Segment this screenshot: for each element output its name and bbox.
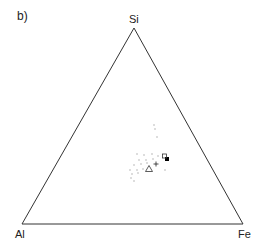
scatter-dot: [155, 129, 156, 130]
ternary-triangle: [22, 28, 243, 224]
scatter-dot: [132, 174, 133, 175]
scatter-dot: [152, 154, 153, 155]
open-triangle-marker: [146, 166, 153, 172]
scatter-dot: [134, 181, 135, 182]
marker-group: [146, 154, 170, 172]
scatter-dot: [137, 154, 138, 155]
scatter-dot: [138, 173, 139, 174]
scatter-dot: [134, 165, 135, 166]
scatter-dot: [154, 125, 155, 126]
scatter-dot: [146, 160, 147, 161]
scatter-dot: [165, 170, 166, 171]
scatter-dot: [139, 160, 140, 161]
scatter-dot: [153, 159, 154, 160]
scatter-dot: [137, 170, 138, 171]
plus-marker: [154, 162, 159, 167]
scatter-dot: [131, 178, 132, 179]
scatter-dot: [147, 163, 148, 164]
scatter-dot: [144, 155, 145, 156]
scatter-dot: [141, 164, 142, 165]
ternary-plot: [0, 0, 260, 252]
scatter-dot: [130, 170, 131, 171]
scatter-dots: [130, 125, 166, 182]
scatter-dot: [158, 156, 159, 157]
scatter-dot: [143, 169, 144, 170]
scatter-dot: [157, 137, 158, 138]
